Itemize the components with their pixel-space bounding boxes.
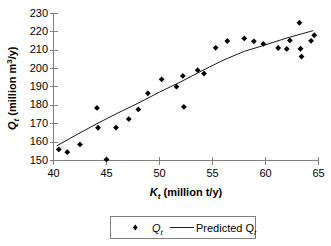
data-point-marker: [135, 107, 141, 113]
y-tick-label: 210: [30, 43, 48, 55]
x-tick-label: 60: [259, 167, 271, 179]
y-tick-label: 160: [30, 135, 48, 147]
x-tick-label: 45: [100, 167, 112, 179]
data-point-marker: [299, 54, 305, 60]
y-axis-title-unit-a: (million m: [6, 64, 18, 119]
data-point-marker: [287, 38, 293, 44]
x-axis-title: Kt (million t/y): [150, 186, 223, 201]
x-tick-label: 55: [206, 167, 218, 179]
data-point-marker: [56, 147, 62, 153]
data-point-marker: [64, 149, 70, 155]
data-point-marker: [201, 71, 207, 77]
y-axis-title: Qt (million m3/y): [5, 46, 21, 130]
svg-text:Kt (million t/y): Kt (million t/y): [150, 186, 223, 201]
data-point-marker: [95, 125, 101, 131]
data-point-marker: [159, 76, 165, 82]
chart-canvas: Qt (million m3/y) 150 160 170 180 190 20…: [0, 0, 331, 246]
y-tick-label: 150: [30, 154, 48, 166]
plot-series-layer: [56, 20, 317, 162]
x-axis: [54, 157, 319, 165]
y-tick-label: 200: [30, 62, 48, 74]
data-point-marker: [298, 46, 304, 52]
data-point-marker: [297, 20, 303, 26]
data-point-marker: [181, 104, 187, 110]
data-point-marker: [224, 38, 230, 44]
x-axis-title-unit: (million t/y): [160, 186, 222, 198]
legend-line-symbol: Predicted Q: [196, 222, 255, 234]
x-tick-label: 40: [47, 167, 59, 179]
legend-line-subscript: t: [254, 228, 257, 237]
y-tick-label: 190: [30, 80, 48, 92]
x-tick-label: 50: [153, 167, 165, 179]
data-point-marker: [251, 38, 257, 44]
data-point-marker: [104, 156, 110, 162]
x-tick-label: 65: [312, 167, 324, 179]
y-tick-label: 170: [30, 117, 48, 129]
regression-line: [57, 31, 314, 146]
data-point-marker: [113, 125, 119, 131]
chart-figure: Qt (million m3/y) 150 160 170 180 190 20…: [0, 0, 331, 246]
data-point-marker: [308, 38, 314, 44]
data-point-marker: [180, 73, 186, 79]
data-point-marker: [311, 32, 317, 38]
y-tick-label: 230: [30, 7, 48, 19]
x-axis-tick-labels: 40 45 50 55 60 65: [47, 167, 324, 179]
data-point-marker: [145, 90, 151, 96]
data-point-marker: [94, 105, 100, 111]
data-point-marker: [284, 46, 290, 52]
data-point-marker: [275, 45, 281, 51]
data-point-marker: [213, 45, 219, 51]
data-point-marker: [241, 36, 247, 42]
data-point-marker: [77, 142, 83, 148]
y-axis-tick-labels: 150 160 170 180 190 200 210 220 230: [30, 7, 48, 166]
svg-text:Qt (million m3/y): Qt (million m3/y): [5, 46, 21, 130]
data-point-marker: [126, 116, 132, 122]
y-axis-title-unit-b: /y): [6, 46, 18, 59]
y-tick-label: 220: [30, 25, 48, 37]
y-axis: [50, 13, 58, 161]
y-tick-label: 180: [30, 98, 48, 110]
legend: Qt Predicted Qt: [111, 217, 258, 239]
